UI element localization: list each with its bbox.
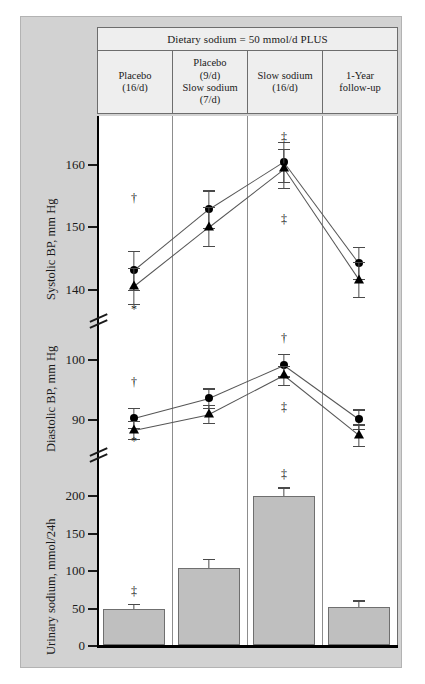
y-axis-title-text: Systolic BP, mm Hg [44, 199, 58, 300]
bar [253, 496, 315, 646]
error-bar-cap [353, 600, 365, 601]
ytick-urinary-100 [88, 570, 97, 572]
error-bar-cap [128, 421, 140, 422]
y-axis-title-urinary: Urinary sodium, mmol/24h [44, 519, 59, 655]
error-bar-cap [128, 251, 140, 252]
header-line: Slow sodium [257, 70, 312, 82]
error-bar-cap [353, 446, 365, 447]
ytick-label: 150 [66, 219, 86, 235]
header-line: follow-up [339, 82, 380, 94]
ytick-label: 160 [66, 157, 86, 173]
significance-marker: ‡ [281, 131, 287, 143]
ytick-label: 100 [66, 563, 86, 579]
data-point-triangle [129, 424, 139, 433]
ytick-systolic-140 [88, 289, 97, 291]
error-bar-cap [278, 188, 290, 189]
significance-marker: * [131, 435, 137, 447]
ytick-systolic-160 [88, 164, 97, 166]
ytick-urinary-0 [88, 645, 97, 647]
significance-marker: ‡ [281, 401, 287, 413]
header-line: Slow sodium [182, 82, 237, 94]
header-line: (16/d) [257, 82, 312, 94]
figure-page: Dietary sodium = 50 mmol/d PLUS Placebo … [0, 0, 425, 684]
error-bar-cap [278, 354, 290, 355]
ytick-label: 0 [79, 638, 86, 654]
error-bar-cap [278, 487, 290, 488]
data-point-circle [355, 415, 363, 423]
axis-break-diastolic-urinary [89, 447, 107, 463]
header-line: 1-Year [339, 70, 380, 82]
ytick-urinary-150 [88, 533, 97, 535]
significance-marker: ‡ [281, 213, 287, 225]
header-line: Placebo [118, 70, 151, 82]
error-bar-cap [203, 388, 215, 389]
y-axis-title-diastolic: Diastolic BP, mm Hg [44, 346, 59, 452]
error-bar-cap [278, 149, 290, 150]
ytick-label: 50 [72, 601, 85, 617]
error-bar-cap [203, 423, 215, 424]
significance-marker: ‡ [131, 585, 137, 597]
ytick-diastolic-90 [88, 419, 97, 421]
data-point-triangle [204, 221, 214, 230]
data-point-triangle [279, 370, 289, 379]
error-bar-cap [203, 190, 215, 191]
header-column-placebo16: Placebo (16/d) [98, 51, 173, 113]
data-point-triangle [354, 274, 364, 283]
panel-divider [322, 116, 323, 647]
error-bar-cap [353, 262, 365, 263]
y-axis-title-systolic: Systolic BP, mm Hg [44, 199, 59, 300]
data-point-triangle [279, 163, 289, 172]
error-bar-cap [203, 246, 215, 247]
significance-marker: † [131, 192, 137, 204]
error-bar-cap [353, 247, 365, 248]
data-point-circle [205, 394, 213, 402]
axis-break-systolic-diastolic [89, 313, 107, 329]
header-line: (7/d) [182, 94, 237, 106]
header-line: Placebo [182, 57, 237, 69]
condition-header-table: Dietary sodium = 50 mmol/d PLUS Placebo … [97, 27, 398, 114]
ytick-label: 200 [66, 488, 86, 504]
ytick-label: 90 [72, 412, 85, 428]
error-bar-cap [278, 385, 290, 386]
bar [328, 607, 390, 645]
error-bar-cap [278, 366, 290, 367]
bar [103, 609, 165, 646]
significance-marker: ‡ [281, 468, 287, 480]
error-bar-cap [203, 405, 215, 406]
significance-marker: * [131, 303, 137, 315]
header-column-placebo9-slow7: Placebo (9/d) Slow sodium (7/d) [173, 51, 248, 113]
ytick-urinary-50 [88, 608, 97, 610]
data-point-triangle [354, 430, 364, 439]
error-bar-cap [203, 207, 215, 208]
significance-marker: † [131, 376, 137, 388]
significance-marker: † [281, 332, 287, 344]
ytick-diastolic-100 [88, 359, 97, 361]
header-column-row: Placebo (16/d) Placebo (9/d) Slow sodium… [98, 51, 397, 113]
panel-divider [172, 116, 173, 647]
error-bar-cap [353, 297, 365, 298]
header-column-slowsodium16: Slow sodium (16/d) [248, 51, 323, 113]
ytick-urinary-200 [88, 495, 97, 497]
header-title: Dietary sodium = 50 mmol/d PLUS [98, 28, 397, 51]
header-column-followup: 1-Year follow-up [323, 51, 397, 113]
error-bar-cap [128, 268, 140, 269]
y-axis-title-text: Urinary sodium, mmol/24h [44, 519, 58, 655]
ytick-label: 100 [66, 352, 86, 368]
ytick-label: 150 [66, 526, 86, 542]
error-bar-cap [128, 408, 140, 409]
error-bar-cap [353, 409, 365, 410]
error-bar-cap [128, 604, 140, 605]
y-axis-column: 160 150 140 100 90 200 150 100 50 0 Syst… [0, 0, 97, 684]
header-line: (9/d) [182, 70, 237, 82]
ytick-systolic-150 [88, 226, 97, 228]
ytick-label: 140 [66, 282, 86, 298]
y-axis-title-text: Diastolic BP, mm Hg [44, 346, 58, 452]
data-point-triangle [129, 280, 139, 289]
header-line: (16/d) [118, 82, 151, 94]
error-bar-cap [353, 424, 365, 425]
data-point-triangle [204, 409, 214, 418]
error-bar-cap [203, 559, 215, 560]
bar [178, 568, 240, 646]
error-bar [208, 559, 209, 568]
